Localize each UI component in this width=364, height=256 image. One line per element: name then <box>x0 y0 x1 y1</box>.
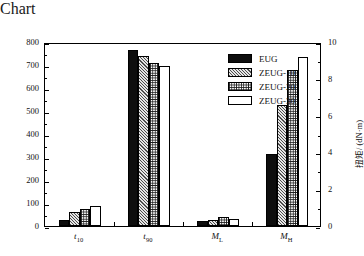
y-axis-left-tick <box>45 67 49 68</box>
legend: EUGZEUG-10ZEUG-20ZEUG-30 <box>228 52 324 108</box>
bar-ML-zeug-30 <box>229 219 240 226</box>
bar-t90-zeug-10 <box>138 56 149 226</box>
x-axis-tick <box>114 222 115 226</box>
x-axis-tick <box>183 222 184 226</box>
legend-swatch-zeug-20 <box>228 82 252 91</box>
y-axis-right-minor-tick <box>318 209 320 210</box>
x-axis-category-label-t10: t10 <box>44 231 114 243</box>
bar-t10-eug <box>59 220 70 226</box>
bar-MH-eug <box>266 154 277 226</box>
legend-label: ZEUG-20 <box>259 82 295 92</box>
y-axis-left-tick-label: 700 <box>13 60 39 70</box>
y-axis-left-tick-label: 500 <box>13 106 39 116</box>
y-axis-right-tick-label: 2 <box>328 184 354 194</box>
bar-ML-zeug-20 <box>218 217 229 226</box>
y-axis-left-minor-tick <box>45 78 47 79</box>
x-axis-category-label-ML: ML <box>182 231 252 243</box>
y-axis-right-tick-label: 4 <box>328 147 354 157</box>
y-axis-left-tick-label: 100 <box>13 198 39 208</box>
y-axis-left-tick <box>45 113 49 114</box>
y-axis-left-tick <box>45 182 49 183</box>
legend-label: EUG <box>259 54 278 64</box>
y-axis-right-tick <box>316 191 320 192</box>
legend-item-zeug-30[interactable]: ZEUG-30 <box>228 94 324 107</box>
y-axis-left-tick <box>45 90 49 91</box>
bar-MH-zeug-10 <box>277 105 288 226</box>
y-axis-left-tick <box>45 159 49 160</box>
y-axis-left-minor-tick <box>45 216 47 217</box>
legend-item-zeug-10[interactable]: ZEUG-10 <box>228 66 324 79</box>
legend-swatch-eug <box>228 54 252 63</box>
y-axis-right-tick <box>316 44 320 45</box>
chart-figure: 时间/s 扭矩/ (dN·m) 010020030040050060070080… <box>0 18 364 256</box>
y-axis-left-minor-tick <box>45 193 47 194</box>
y-axis-left-tick <box>45 228 49 229</box>
y-axis-left-minor-tick <box>45 101 47 102</box>
x-axis-tick <box>252 222 253 226</box>
y-axis-left-tick-label: 600 <box>13 83 39 93</box>
legend-label: ZEUG-30 <box>259 96 295 106</box>
y-axis-right-tick-label: 6 <box>328 111 354 121</box>
y-axis-left-tick <box>45 205 49 206</box>
y-axis-right-tick <box>316 117 320 118</box>
bar-ML-zeug-10 <box>208 220 219 226</box>
y-axis-left-tick-label: 0 <box>13 221 39 231</box>
y-axis-left-minor-tick <box>45 147 47 148</box>
y-axis-left-tick-label: 400 <box>13 129 39 139</box>
y-axis-right-minor-tick <box>318 136 320 137</box>
y-axis-left-tick <box>45 136 49 137</box>
bar-ML-eug <box>197 221 208 226</box>
y-axis-right-tick <box>316 154 320 155</box>
legend-item-eug[interactable]: EUG <box>228 52 324 65</box>
y-axis-right-tick <box>316 228 320 229</box>
y-axis-left-minor-tick <box>45 170 47 171</box>
x-axis-category-label-MH: MH <box>251 231 321 243</box>
bar-t90-eug <box>128 50 139 226</box>
bar-t90-zeug-20 <box>149 63 160 226</box>
y-axis-left-tick-label: 200 <box>13 175 39 185</box>
bar-t90-zeug-30 <box>159 66 170 226</box>
y-axis-right-tick-label: 10 <box>328 37 354 47</box>
y-axis-left-tick <box>45 44 49 45</box>
bar-t10-zeug-10 <box>69 212 80 226</box>
y-axis-left-tick-label: 800 <box>13 37 39 47</box>
y-axis-right-tick-label: 8 <box>328 74 354 84</box>
legend-swatch-zeug-10 <box>228 68 252 77</box>
x-axis-category-label-t90: t90 <box>113 231 183 243</box>
bar-t10-zeug-30 <box>90 206 101 226</box>
y-axis-left-minor-tick <box>45 124 47 125</box>
y-axis-right-tick-label: 0 <box>328 221 354 231</box>
legend-label: ZEUG-10 <box>259 68 295 78</box>
plot-area: EUGZEUG-10ZEUG-20ZEUG-30 <box>44 43 321 227</box>
y-axis-left-minor-tick <box>45 55 47 56</box>
bar-t10-zeug-20 <box>80 209 91 226</box>
y-axis-right-minor-tick <box>318 172 320 173</box>
y-axis-right-title: 扭矩/ (dN·m) <box>352 120 364 168</box>
legend-swatch-zeug-30 <box>228 96 252 105</box>
y-axis-left-tick-label: 300 <box>13 152 39 162</box>
legend-item-zeug-20[interactable]: ZEUG-20 <box>228 80 324 93</box>
